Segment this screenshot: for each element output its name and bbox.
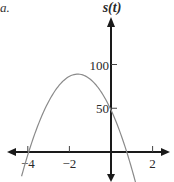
y-axis-label: s(t) [102, 0, 122, 16]
y-tick-label: 50 [96, 101, 109, 116]
y-ticks: 50100 [90, 58, 118, 117]
y-axis [107, 17, 115, 182]
function-plot: −4−22 50100 s(t) [0, 0, 174, 182]
problem-label: a. [0, 0, 10, 16]
x-tick-label: 2 [149, 156, 156, 171]
x-tick-label: −4 [21, 156, 35, 171]
x-ticks: −4−22 [21, 146, 156, 171]
y-tick-label: 100 [90, 58, 110, 73]
parabola-curve [22, 74, 138, 182]
x-axis [7, 148, 170, 156]
x-axis-left-arrow-icon [7, 148, 16, 156]
x-axis-right-arrow-icon [161, 148, 170, 156]
y-axis-up-arrow-icon [107, 17, 115, 27]
chart-container: a. −4−22 50100 s(t) [0, 0, 174, 182]
y-axis-down-arrow-icon [107, 174, 115, 182]
x-tick-label: −2 [62, 156, 76, 171]
